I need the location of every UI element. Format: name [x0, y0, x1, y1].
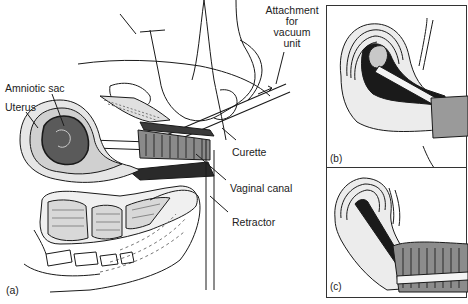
hand-outline	[150, 0, 255, 121]
abdomen-outline	[78, 60, 270, 96]
panel-c: (c)	[326, 167, 467, 298]
panel-b: (b)	[326, 5, 467, 168]
leader-retractor	[210, 196, 228, 212]
retractor-blade-lower	[128, 162, 214, 180]
body-back-contour	[192, 0, 204, 80]
panel-label-a: (a)	[6, 284, 19, 296]
vaginal-tissue-b	[431, 96, 468, 138]
panel-c-illustration	[327, 168, 468, 299]
leader-attachment	[276, 52, 284, 84]
pubic-bone	[100, 96, 170, 122]
wrist-line	[120, 14, 136, 34]
leader-curette	[222, 128, 236, 140]
amniotic-sac	[42, 116, 88, 164]
vertebra-2	[74, 252, 98, 266]
label-attachment-line4: unit	[262, 38, 322, 49]
label-vaginal-canal: Vaginal canal	[230, 182, 292, 194]
vertebra-3	[100, 254, 118, 266]
panel-label-b: (b)	[330, 153, 342, 164]
wrist-line-2	[140, 30, 165, 32]
panel-b-illustration	[327, 6, 468, 169]
vacuum-tube-upper	[150, 84, 286, 142]
vaginal-tissue-c	[393, 242, 468, 292]
label-amniotic-sac: Amniotic sac	[5, 82, 65, 94]
label-retractor: Retractor	[232, 216, 275, 228]
label-uterus: Uterus	[5, 101, 36, 113]
label-curette: Curette	[232, 146, 266, 158]
fetal-tissue-b	[369, 46, 388, 68]
finger-outline	[214, 90, 237, 120]
label-attachment-vacuum: Attachment for vacuum unit	[262, 5, 322, 49]
bowel-segment-1	[48, 200, 88, 241]
spine-lower-line	[24, 264, 100, 276]
panel-label-c: (c)	[330, 281, 342, 292]
cervix-b	[419, 18, 433, 70]
vertebra-1	[46, 250, 72, 266]
bottom-contour-b	[423, 146, 435, 169]
